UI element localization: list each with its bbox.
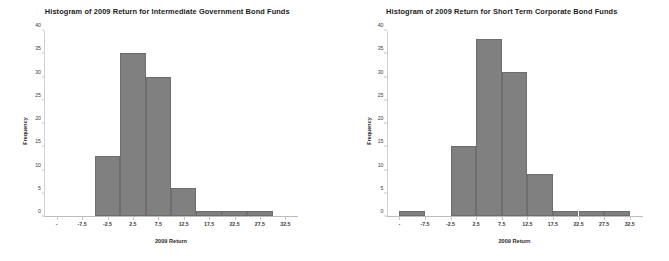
y-tick-label-left: 20	[35, 115, 41, 121]
x-tick-mark-right	[527, 217, 528, 220]
x-tick-label-left: 27.5	[255, 221, 265, 227]
histogram-bar	[502, 72, 528, 216]
y-tick-mark-right	[384, 216, 387, 217]
x-tick-label-left: -	[56, 221, 58, 227]
histogram-bar	[451, 146, 477, 216]
y-tick-mark-left	[42, 146, 45, 147]
x-tick-mark-left	[82, 217, 83, 220]
y-axis-label-left: Frequency	[22, 117, 28, 144]
histogram-bar	[95, 156, 120, 216]
histogram-bar	[196, 211, 221, 216]
histogram-bar	[146, 77, 171, 217]
y-axis-line-right	[387, 31, 388, 217]
x-tick-label-right: 12.5	[522, 221, 532, 227]
x-tick-label-right: -2.5	[446, 221, 455, 227]
y-tick-label-right: 25	[378, 92, 384, 98]
y-tick-mark-left	[42, 99, 45, 100]
histogram-bar	[579, 211, 605, 216]
y-tick-label-left: 30	[35, 69, 41, 75]
x-tick-mark-right	[502, 217, 503, 220]
plot-area-right: 0510152025303540--7.5-2.52.57.512.517.52…	[387, 31, 643, 217]
histogram-bar	[120, 53, 145, 216]
histogram-bar	[399, 211, 425, 216]
chart-title-right: Histogram of 2009 Return for Short Term …	[335, 7, 669, 16]
histogram-bar	[476, 39, 502, 216]
x-tick-label-right: 2.5	[472, 221, 479, 227]
y-tick-mark-right	[384, 30, 387, 31]
y-tick-label-right: 20	[378, 115, 384, 121]
y-tick-mark-left	[42, 192, 45, 193]
y-tick-mark-right	[384, 192, 387, 193]
y-tick-mark-left	[42, 216, 45, 217]
x-tick-label-right: 17.5	[548, 221, 558, 227]
chart-short-term-corporate-bond-funds: Histogram of 2009 Return for Short Term …	[335, 0, 669, 261]
y-tick-label-right: 15	[378, 138, 384, 144]
y-tick-mark-left	[42, 53, 45, 54]
y-tick-mark-left	[42, 169, 45, 170]
y-axis-line-left	[44, 31, 45, 217]
x-axis-label-left: 2009 Return	[44, 238, 298, 244]
y-tick-label-right: 10	[378, 162, 384, 168]
y-tick-label-left: 40	[35, 22, 41, 28]
x-tick-label-right: 7.5	[498, 221, 505, 227]
x-tick-mark-right	[553, 217, 554, 220]
y-tick-label-left: 5	[38, 185, 41, 191]
histogram-bar	[553, 211, 579, 216]
y-tick-mark-left	[42, 30, 45, 31]
y-tick-label-left: 0	[38, 208, 41, 214]
y-tick-label-left: 15	[35, 138, 41, 144]
x-tick-mark-left	[260, 217, 261, 220]
y-tick-mark-right	[384, 169, 387, 170]
x-tick-mark-right	[630, 217, 631, 220]
x-tick-label-left: 22.5	[229, 221, 239, 227]
x-tick-label-right: 32.5	[625, 221, 635, 227]
x-tick-label-right: -	[398, 221, 400, 227]
x-tick-label-right: 22.5	[573, 221, 583, 227]
x-tick-mark-left	[133, 217, 134, 220]
x-tick-mark-left	[235, 217, 236, 220]
x-tick-label-right: 27.5	[599, 221, 609, 227]
x-axis-label-right: 2009 Return	[387, 238, 643, 244]
x-tick-mark-left	[158, 217, 159, 220]
histogram-bar	[247, 211, 272, 216]
x-tick-mark-right	[476, 217, 477, 220]
x-tick-mark-left	[184, 217, 185, 220]
histogram-bar	[222, 211, 247, 216]
y-tick-label-right: 0	[381, 208, 384, 214]
y-axis-label-right: Frequency	[365, 117, 371, 144]
x-tick-label-left: -2.5	[103, 221, 112, 227]
y-tick-label-left: 10	[35, 162, 41, 168]
histogram-bar	[527, 174, 553, 216]
y-tick-label-right: 35	[378, 45, 384, 51]
x-tick-mark-right	[425, 217, 426, 220]
x-tick-label-left: 7.5	[155, 221, 162, 227]
x-tick-label-left: 32.5	[280, 221, 290, 227]
y-tick-mark-left	[42, 76, 45, 77]
y-tick-label-right: 5	[381, 185, 384, 191]
x-tick-mark-left	[108, 217, 109, 220]
y-tick-mark-right	[384, 53, 387, 54]
x-tick-label-right: -7.5	[420, 221, 429, 227]
x-tick-mark-left	[285, 217, 286, 220]
y-tick-mark-right	[384, 146, 387, 147]
x-tick-mark-right	[451, 217, 452, 220]
y-tick-label-right: 30	[378, 69, 384, 75]
y-tick-mark-right	[384, 99, 387, 100]
x-tick-label-left: 17.5	[204, 221, 214, 227]
plot-area-left: 0510152025303540--7.5-2.52.57.512.517.52…	[44, 31, 298, 217]
x-tick-mark-right	[399, 217, 400, 220]
y-tick-label-left: 25	[35, 92, 41, 98]
histogram-pair-figure: Histogram of 2009 Return for Intermediat…	[0, 0, 669, 261]
x-tick-mark-right	[604, 217, 605, 220]
chart-title-left: Histogram of 2009 Return for Intermediat…	[0, 7, 335, 16]
x-tick-label-left: 12.5	[179, 221, 189, 227]
x-tick-mark-right	[579, 217, 580, 220]
y-tick-label-left: 35	[35, 45, 41, 51]
x-tick-mark-left	[209, 217, 210, 220]
chart-intermediate-government-bond-funds: Histogram of 2009 Return for Intermediat…	[0, 0, 335, 261]
y-tick-mark-left	[42, 123, 45, 124]
y-tick-mark-right	[384, 76, 387, 77]
y-tick-label-right: 40	[378, 22, 384, 28]
histogram-bar	[171, 188, 196, 216]
x-tick-label-left: 2.5	[129, 221, 136, 227]
